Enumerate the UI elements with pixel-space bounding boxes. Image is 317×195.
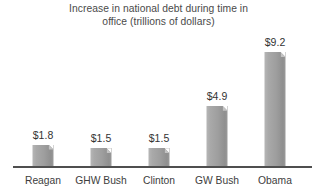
bar-wrap (33, 145, 54, 168)
bar-clinton[interactable] (149, 148, 170, 167)
bar-value-label: $1.5 (91, 133, 111, 144)
category-label-slot: Obama (246, 167, 304, 195)
bar-obama[interactable] (265, 52, 286, 167)
category-label-slot: GW Bush (188, 167, 246, 195)
bar-wrap (265, 52, 286, 167)
bar-chart: Increase in national debt during time in… (0, 0, 317, 195)
category-label-reagan: Reagan (25, 175, 61, 187)
bar-reagan[interactable] (33, 145, 54, 168)
category-label-gw-bush: GW Bush (195, 175, 239, 187)
bar-wrap (207, 106, 228, 167)
bar-value-label: $9.2 (265, 37, 285, 48)
bar-wrap (149, 148, 170, 167)
category-label-obama: Obama (258, 175, 292, 187)
bar-group: $9.2 (246, 27, 304, 167)
bar-value-label: $1.5 (149, 133, 169, 144)
bar-group: $1.5 (130, 27, 188, 167)
bar-ghw-bush[interactable] (91, 148, 112, 167)
bar-group: $1.8 (14, 27, 72, 167)
category-label-slot: GHW Bush (72, 167, 130, 195)
bar-wrap (91, 148, 112, 167)
category-label-ghw-bush: GHW Bush (75, 175, 127, 187)
bar-value-label: $4.9 (207, 91, 227, 102)
category-label-clinton: Clinton (143, 175, 175, 187)
bar-value-label: $1.8 (33, 130, 53, 141)
plot-area: $1.8$1.5$1.5$4.9$9.2 ReaganGHW BushClint… (0, 0, 317, 195)
bar-group: $1.5 (72, 27, 130, 167)
bar-group: $4.9 (188, 27, 246, 167)
bar-gw-bush[interactable] (207, 106, 228, 167)
category-label-slot: Reagan (14, 167, 72, 195)
category-label-slot: Clinton (130, 167, 188, 195)
